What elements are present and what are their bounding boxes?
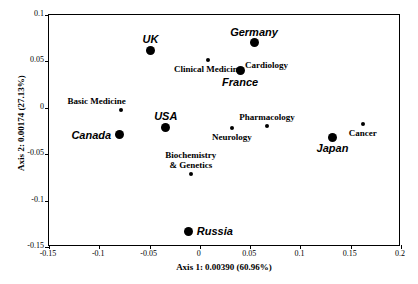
x-tick-label: 0.15	[330, 249, 370, 258]
x-tick-label: 0.05	[229, 249, 269, 258]
data-point-label: France	[222, 77, 258, 87]
data-point-label: Clinical Medicine	[174, 64, 242, 74]
x-tick	[99, 245, 100, 249]
x-axis-title: Axis 1: 0.00390 (60.96%)	[48, 262, 400, 272]
data-point-label: Basic Medicine	[67, 96, 125, 106]
data-point-marker	[328, 133, 337, 142]
data-point-marker	[146, 46, 155, 55]
data-point-label: Cancer	[349, 128, 377, 138]
x-tick-label: 0.2	[380, 249, 418, 258]
data-point-label: Germany	[230, 27, 278, 37]
data-point-label: UK	[143, 34, 159, 44]
data-point-label: Pharmacology	[239, 112, 295, 122]
data-point-label: Canada	[71, 130, 111, 140]
data-point-marker	[161, 123, 170, 132]
plot-area: UKGermanyFranceUSACanadaJapanRussiaClini…	[48, 14, 400, 246]
data-point-marker	[189, 172, 193, 176]
data-point-marker	[265, 124, 269, 128]
x-tick-label: 0.1	[279, 249, 319, 258]
y-tick	[45, 201, 49, 202]
y-tick	[45, 15, 49, 16]
data-point-marker	[238, 69, 242, 73]
y-tick	[45, 154, 49, 155]
y-tick-label: 0.05	[8, 55, 44, 64]
x-tick-label: -0.05	[129, 249, 169, 258]
y-tick	[45, 61, 49, 62]
x-tick	[351, 245, 352, 249]
y-axis-title: Axis 2: 0.00174 (27.13%)	[16, 43, 26, 203]
x-tick-label: -0.15	[28, 249, 68, 258]
data-point-marker	[250, 38, 259, 47]
data-point-label: Russia	[197, 226, 233, 236]
data-point-label: Cardiology	[245, 60, 288, 70]
scatter-plot-figure: Axis 2: 0.00174 (27.13%) 0.10.050-0.05-0…	[0, 0, 418, 284]
data-point-marker	[230, 126, 234, 130]
data-point-label: USA	[154, 111, 177, 121]
y-tick-label: 0.1	[8, 9, 44, 18]
data-point-marker	[119, 108, 123, 112]
x-tick	[200, 245, 201, 249]
x-tick	[49, 245, 50, 249]
data-point-label: Neurology	[212, 132, 252, 142]
data-point-label: Japan	[317, 143, 349, 153]
y-tick-label: -0.05	[8, 148, 44, 157]
y-tick	[45, 247, 49, 248]
y-tick	[45, 108, 49, 109]
data-point-label: Biochemistry& Genetics	[165, 150, 216, 170]
x-tick-label: -0.1	[78, 249, 118, 258]
data-point-marker	[206, 58, 210, 62]
x-tick	[401, 245, 402, 249]
x-tick	[250, 245, 251, 249]
data-point-marker	[184, 227, 193, 236]
x-tick	[300, 245, 301, 249]
y-tick-label: 0	[8, 102, 44, 111]
x-tick	[150, 245, 151, 249]
data-point-marker	[115, 130, 124, 139]
data-point-marker	[361, 122, 365, 126]
y-tick-label: -0.1	[8, 195, 44, 204]
x-tick-label: 0	[179, 249, 219, 258]
